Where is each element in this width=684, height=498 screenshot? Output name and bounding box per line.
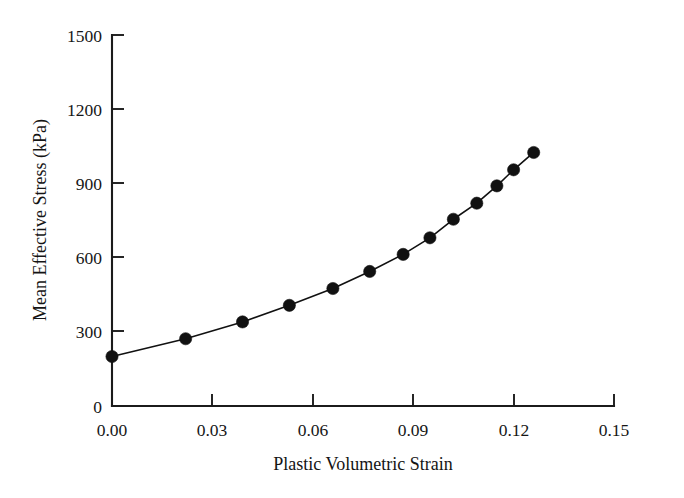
- y-tick-label-300: 300: [76, 322, 103, 342]
- x-tick-label-0.15: 0.15: [599, 420, 630, 440]
- data-point: [491, 180, 503, 192]
- data-point: [397, 248, 409, 260]
- data-point: [283, 299, 295, 311]
- data-point: [471, 197, 483, 209]
- y-axis-ticks: [112, 35, 124, 406]
- data-point: [327, 282, 339, 294]
- y-tick-label-0: 0: [93, 397, 102, 417]
- data-point: [528, 146, 540, 158]
- chart-figure: 1500 1200 900 600 300 0 0.00 0.03 0.06 0…: [0, 0, 684, 498]
- data-point: [507, 164, 519, 176]
- data-point: [236, 316, 248, 328]
- y-axis-title: Mean Effective Stress (kPa): [30, 119, 51, 321]
- y-tick-label-1200: 1200: [67, 100, 102, 120]
- x-tick-label-0.06: 0.06: [298, 420, 329, 440]
- data-point: [447, 213, 459, 225]
- x-tick-label-0.00: 0.00: [97, 420, 128, 440]
- data-point: [180, 333, 192, 345]
- x-tick-label-0.12: 0.12: [499, 420, 530, 440]
- y-tick-label-1500: 1500: [67, 26, 102, 46]
- x-axis-ticks: [112, 394, 614, 406]
- series-line-0: [112, 152, 534, 356]
- data-point: [364, 265, 376, 277]
- data-point: [424, 232, 436, 244]
- y-tick-label-900: 900: [76, 174, 103, 194]
- x-tick-label-0.09: 0.09: [398, 420, 429, 440]
- data-series-group: [106, 146, 540, 362]
- x-tick-label-0.03: 0.03: [197, 420, 228, 440]
- chart-plot-area: 1500 1200 900 600 300 0 0.00 0.03 0.06 0…: [0, 0, 684, 498]
- x-axis-title: Plastic Volumetric Strain: [273, 454, 452, 474]
- data-point: [106, 350, 118, 362]
- y-tick-label-600: 600: [76, 248, 103, 268]
